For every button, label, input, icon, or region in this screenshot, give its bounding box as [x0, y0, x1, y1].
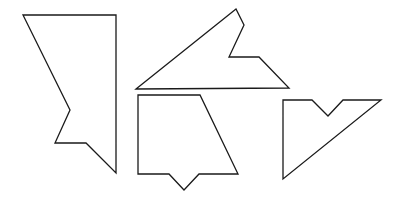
shape-1-polygon — [23, 15, 116, 173]
shape-3-polygon — [138, 95, 238, 190]
shapes-diagram — [0, 0, 399, 204]
shape-4-polygon — [283, 100, 381, 179]
shape-2-polygon — [136, 9, 289, 89]
